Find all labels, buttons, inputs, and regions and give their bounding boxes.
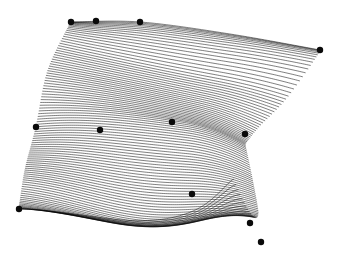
control-point[interactable]	[189, 191, 195, 197]
control-point[interactable]	[97, 127, 103, 133]
bezier-surface-plot	[0, 0, 341, 259]
control-point[interactable]	[317, 47, 323, 53]
control-point[interactable]	[247, 220, 253, 226]
control-point[interactable]	[33, 124, 39, 130]
plot-background	[0, 0, 341, 259]
control-point[interactable]	[93, 18, 99, 24]
figure-root	[0, 0, 341, 259]
control-point[interactable]	[16, 206, 22, 212]
control-point[interactable]	[68, 19, 74, 25]
control-point[interactable]	[258, 239, 264, 245]
control-point[interactable]	[242, 131, 248, 137]
control-point[interactable]	[169, 119, 175, 125]
control-point[interactable]	[137, 19, 143, 25]
